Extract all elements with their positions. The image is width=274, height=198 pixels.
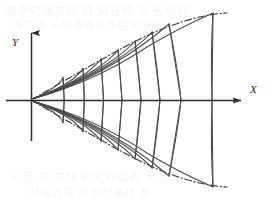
vertical-connector — [101, 59, 104, 101]
upper-characteristic-curves — [32, 13, 213, 100]
caustic-envelope-figure: X Y — [0, 0, 274, 198]
vertical-connector — [135, 41, 141, 101]
y-axis-label: Y — [12, 36, 20, 48]
lower-characteristic-curves — [32, 100, 213, 187]
x-axis-label: X — [249, 83, 258, 95]
vertical-connector — [101, 99, 104, 141]
vertical-connector — [135, 99, 141, 159]
